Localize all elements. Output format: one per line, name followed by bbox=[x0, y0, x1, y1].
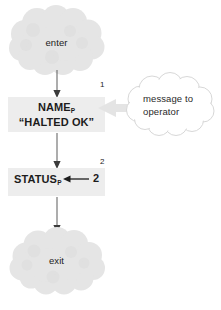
edge-name-to-status bbox=[53, 133, 60, 169]
status-process-subscript: P bbox=[57, 179, 61, 186]
node-label-enter: enter bbox=[0, 38, 113, 48]
edge-step-label-1: 1 bbox=[100, 81, 105, 89]
message-cloud-line-1: message to bbox=[143, 94, 193, 104]
node-label-name-process: NAMEP bbox=[8, 102, 105, 113]
node-label-halted-ok: “HALTED OK” bbox=[8, 117, 105, 128]
name-process-text: NAME bbox=[38, 101, 71, 113]
status-process-text: STATUS bbox=[14, 173, 57, 185]
status-argument-label: 2 bbox=[93, 173, 99, 184]
node-message-cloud[interactable] bbox=[127, 73, 215, 136]
message-cloud-line-2: operator bbox=[143, 107, 179, 117]
edge-step-label-2: 2 bbox=[100, 158, 105, 166]
node-label-exit: exit bbox=[0, 256, 113, 266]
node-label-status-process: STATUSP bbox=[14, 174, 61, 185]
name-process-subscript: P bbox=[71, 107, 75, 114]
